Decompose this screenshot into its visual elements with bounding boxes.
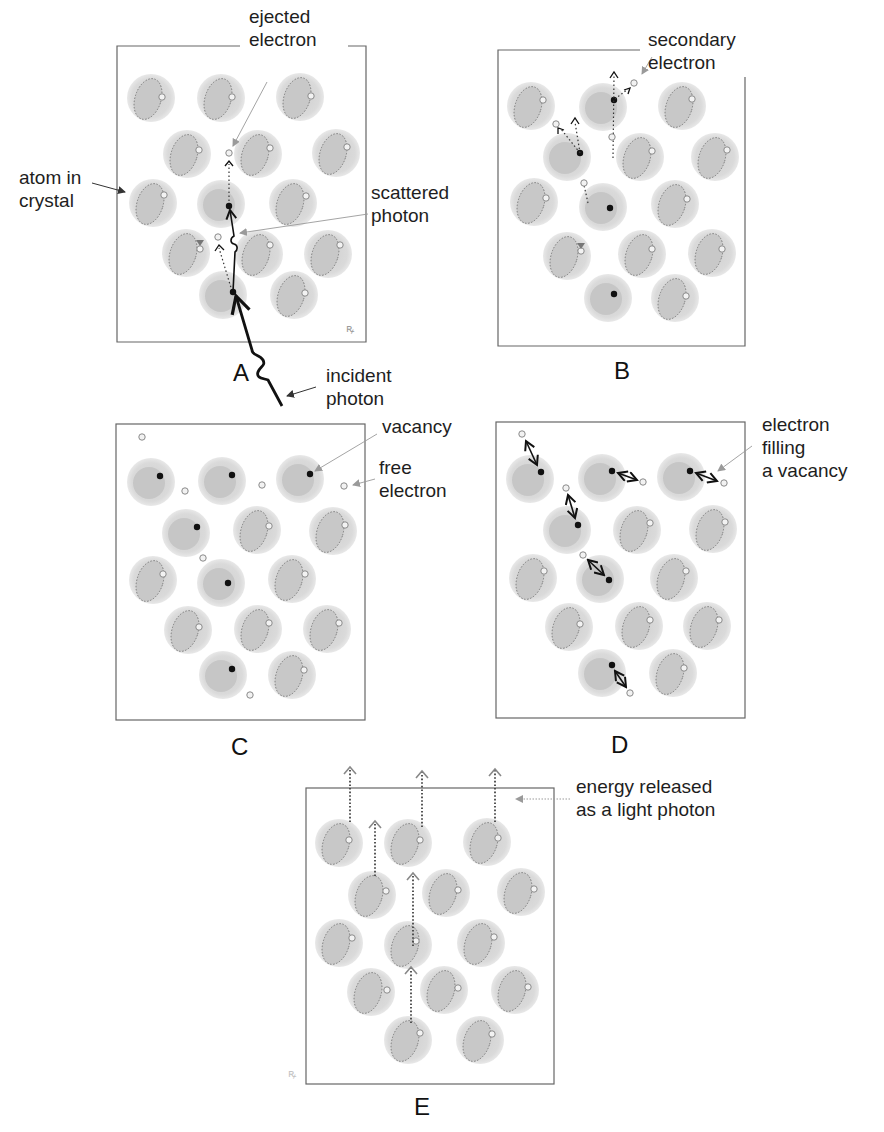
panel-e: ꝶ (288, 768, 570, 1084)
label-electron-filling-vacancy: electron filling a vacancy (762, 413, 848, 482)
secondary-electron (631, 80, 637, 86)
label-incident-photon: incident photon (326, 364, 392, 410)
panel-label-c: C (231, 734, 248, 760)
panel-label-a: A (233, 360, 249, 386)
figure-canvas: ꝶ (0, 0, 884, 1132)
panel-a: ꝶ (92, 46, 368, 406)
vacancy-dot (226, 203, 232, 209)
label-energy-released: energy released as a light photon (576, 775, 715, 821)
incident-photon-path (236, 296, 282, 406)
label-ejected-electron: ejected electron (249, 5, 317, 51)
panel-label-b: B (614, 358, 630, 384)
panel-label-d: D (611, 732, 628, 758)
label-scattered-photon: scattered photon (371, 181, 449, 227)
atom (127, 73, 360, 320)
label-vacancy: vacancy (382, 415, 452, 438)
label-atom-in-crystal: atom in crystal (19, 166, 81, 212)
label-free-electron: free electron (379, 456, 447, 502)
label-secondary-electron: secondary electron (648, 28, 736, 74)
artist-mark: ꝶ (288, 1067, 297, 1079)
ejected-electron (226, 150, 232, 156)
panel-d (496, 422, 752, 718)
artist-mark: ꝶ (346, 322, 355, 334)
vacancy-dot (307, 471, 313, 477)
panel-label-e: E (414, 1094, 430, 1120)
panel-c (116, 424, 377, 720)
panel-b (498, 50, 745, 346)
